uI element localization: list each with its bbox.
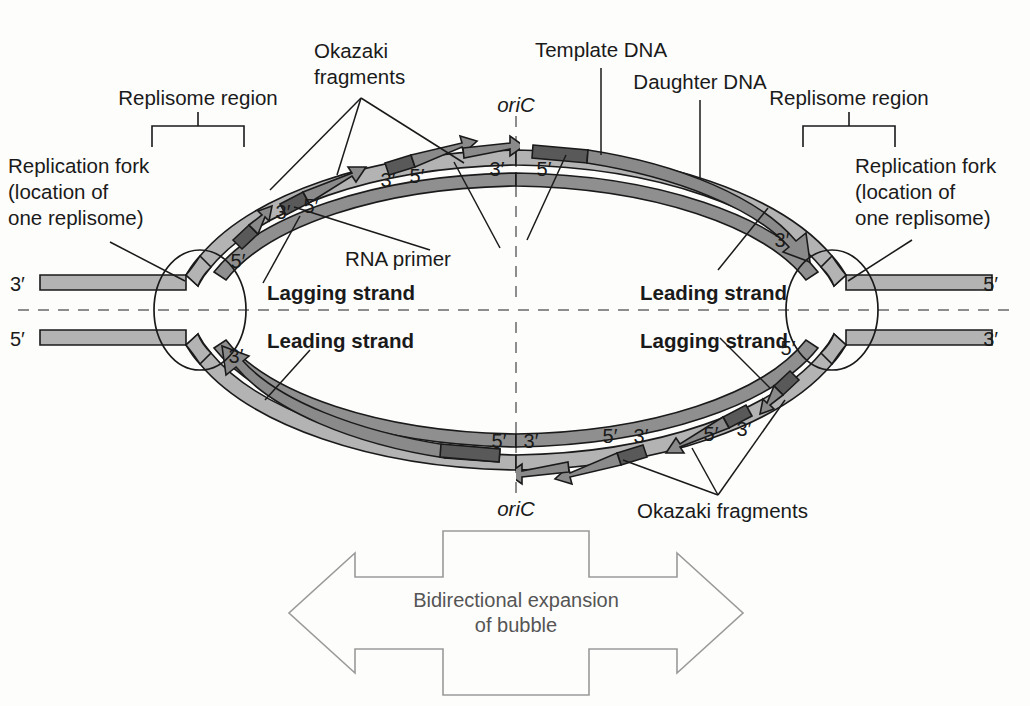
label-okazaki-bottom: Okazaki fragments [637, 499, 808, 522]
prime-mark: 5′ [410, 165, 425, 187]
prime-mark: 3′ [229, 345, 244, 367]
bracket-replisome-region-left [152, 112, 244, 147]
prime-mark: 3′ [381, 169, 396, 191]
label-end-far-right-bottom: 3′ [983, 328, 998, 350]
prime-marks-lower-left: 3′ [229, 345, 244, 367]
label-lagging-strand-upper-left: Lagging strand [267, 281, 415, 304]
prime-mark: 3′ [737, 418, 752, 440]
prime-mark: 5′ [704, 423, 719, 445]
prime-mark: 3′ [490, 158, 505, 180]
prime-mark: 3′ [524, 430, 539, 452]
bidirectional-label-line1: Bidirectional expansion [413, 589, 619, 611]
prime-mark: 3′ [276, 201, 291, 223]
dna-replication-diagram: Bidirectional expansion of bubble [0, 0, 1030, 706]
prime-mark: 5′ [304, 195, 319, 217]
label-oric-bottom: oriC [497, 497, 535, 520]
label-okazaki-top-line1: Okazaki [314, 39, 388, 62]
prime-mark: 5′ [231, 250, 246, 272]
label-okazaki-top-line2: fragments [314, 65, 405, 88]
label-rna-primer: RNA primer [345, 247, 451, 270]
prime-mark: 5′ [781, 337, 796, 359]
label-replisome-region-right: Replisome region [769, 86, 929, 109]
bidirectional-expansion-arrow: Bidirectional expansion of bubble [289, 531, 743, 695]
figure-canvas: Bidirectional expansion of bubble [0, 0, 1030, 706]
label-replisome-region-left: Replisome region [118, 86, 278, 109]
label-replication-fork-right-line1: Replication fork [855, 154, 997, 177]
prime-mark: 3′ [775, 229, 790, 251]
label-end-far-right-top: 5′ [983, 273, 998, 295]
bracket-replisome-region-right [803, 112, 895, 147]
label-end-far-left-bottom: 5′ [10, 328, 25, 350]
label-replication-fork-left-line1: Replication fork [8, 154, 150, 177]
prime-mark: 5′ [537, 158, 552, 180]
prime-mark: 5′ [603, 425, 618, 447]
prime-mark: 3′ [634, 425, 649, 447]
label-oric-top: oriC [497, 93, 535, 116]
label-leading-strand-upper-right: Leading strand [640, 281, 787, 304]
label-leading-strand-lower-left: Leading strand [267, 329, 414, 352]
label-template-dna: Template DNA [535, 38, 667, 61]
label-replication-fork-left-line2: (location of [8, 180, 109, 203]
label-daughter-dna: Daughter DNA [633, 70, 767, 93]
label-replication-fork-left-line3: one replisome) [8, 206, 144, 229]
label-replication-fork-right-line2: (location of [855, 180, 956, 203]
label-end-far-left-top: 3′ [10, 273, 25, 295]
prime-mark: 5′ [492, 430, 507, 452]
bidirectional-label-line2: of bubble [475, 614, 557, 636]
label-lagging-strand-lower-right: Lagging strand [640, 329, 788, 352]
label-replication-fork-right-line3: one replisome) [855, 206, 991, 229]
